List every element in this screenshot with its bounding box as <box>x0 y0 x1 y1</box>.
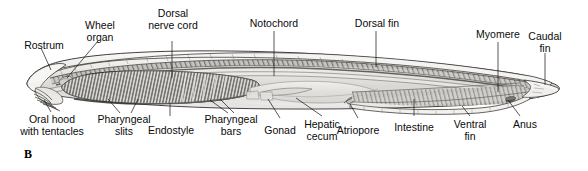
label-caudal-fin: Caudal fin <box>521 31 569 54</box>
label-wheel-organ: Wheel organ <box>72 20 128 43</box>
label-anus: Anus <box>505 119 545 131</box>
label-dorsal-fin: Dorsal fin <box>342 18 412 30</box>
label-endostyle: Endostyle <box>141 125 201 137</box>
label-intestine: Intestine <box>389 122 439 134</box>
lancelet-anatomy-figure: Rostrum Wheel organ Dorsal nerve cord No… <box>0 0 588 171</box>
label-notochord: Notochord <box>236 18 312 30</box>
label-atriopore: Atriopore <box>331 125 385 137</box>
label-dorsal-nerve-cord: Dorsal nerve cord <box>133 8 213 31</box>
label-oral-hood-with-tentacles: Oral hood with tentacles <box>14 114 90 137</box>
label-ventral-fin: Ventral fin <box>446 119 494 142</box>
label-rostrum: Rostrum <box>16 40 72 52</box>
panel-letter: B <box>24 147 32 162</box>
